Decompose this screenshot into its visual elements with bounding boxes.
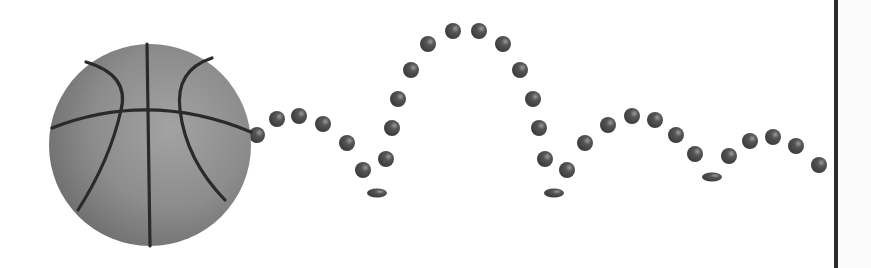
trajectory-dot: [471, 23, 487, 39]
trajectory-dot: [403, 62, 419, 78]
bounce-illustration: [0, 0, 871, 268]
trajectory-dot: [420, 36, 436, 52]
basketball-icon: [49, 44, 251, 246]
trajectory-dot: [339, 135, 355, 151]
trajectory-dot: [495, 36, 511, 52]
trajectory-dot: [811, 157, 827, 173]
trajectory-dot: [378, 151, 394, 167]
squashed-dot: [702, 173, 722, 182]
trajectory-dot: [647, 112, 663, 128]
illustration-stage: [0, 0, 871, 268]
trajectory-dot: [269, 111, 285, 127]
trajectory-dot: [765, 129, 781, 145]
trajectory-dot: [537, 151, 553, 167]
squashed-dot: [544, 189, 564, 198]
trajectory-dot: [445, 23, 461, 39]
trajectory-dot: [525, 91, 541, 107]
trajectory-dot: [531, 120, 547, 136]
trajectory-dot: [384, 120, 400, 136]
trajectory-dot: [559, 162, 575, 178]
trajectory-dot: [668, 127, 684, 143]
squashed-dot: [367, 189, 387, 198]
trajectory-dot: [249, 127, 265, 143]
trajectory-dot: [721, 148, 737, 164]
trajectory-dot: [577, 135, 593, 151]
trajectory-dot: [687, 146, 703, 162]
trajectory-dot: [315, 116, 331, 132]
trajectory-dot: [390, 91, 406, 107]
trajectory-dot: [355, 162, 371, 178]
trajectory-dot: [291, 108, 307, 124]
trajectory-dot: [788, 138, 804, 154]
trajectory-dot: [624, 108, 640, 124]
trajectory-dot: [512, 62, 528, 78]
trajectory-dot: [742, 133, 758, 149]
trajectory-dots: [249, 23, 827, 198]
trajectory-dot: [600, 117, 616, 133]
